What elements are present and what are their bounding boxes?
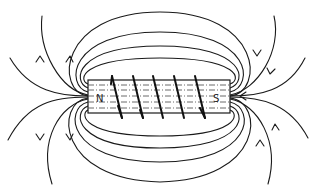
arrow-up-icon	[36, 56, 44, 62]
arrow-up-icon	[272, 124, 279, 130]
field-lines-right-open	[230, 16, 308, 184]
field-lines-left-open	[8, 16, 88, 184]
south-pole-label: S	[213, 93, 219, 104]
arrow-down-icon	[36, 134, 44, 140]
arrow-up-icon	[256, 140, 264, 146]
arrow-down-icon	[267, 68, 275, 74]
iron-core	[88, 80, 230, 113]
north-pole-label: N	[96, 93, 103, 104]
solenoid-field-diagram: N S	[0, 0, 318, 194]
arrow-down-icon	[253, 50, 261, 56]
